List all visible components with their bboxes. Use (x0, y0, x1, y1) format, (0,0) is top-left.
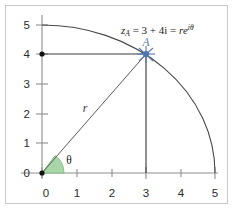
y-axis-tick-labels: 5 4 3 2 1 0 (24, 19, 31, 179)
figure-frame: 5 4 3 2 1 0 0 1 2 3 4 5 (5, 5, 228, 204)
y-tick-label-0: 0 (24, 167, 30, 179)
theta-angle-sector (42, 155, 64, 173)
radius-segment-line (42, 54, 146, 173)
quarter-circle-arc (42, 25, 215, 173)
y-tick-label-4: 4 (24, 48, 31, 60)
angle-label: θ (66, 154, 72, 166)
x-tick-label-3: 3 (143, 187, 149, 199)
x-axis-tick-labels: 0 1 2 3 4 5 (43, 187, 218, 199)
y-tick-label-1: 1 (24, 137, 30, 149)
x-tick-label-0: 0 (43, 187, 49, 199)
complex-plane-plot: 5 4 3 2 1 0 0 1 2 3 4 5 (6, 6, 227, 203)
y-tick-label-3: 3 (24, 78, 30, 90)
origin-point-dot (39, 170, 44, 175)
x-tick-label-1: 1 (74, 187, 80, 199)
equation-middle-text: = 3 + 4i = (130, 24, 179, 36)
x-tick-label-2: 2 (109, 187, 115, 199)
y-tick-label-5: 5 (24, 19, 30, 31)
complex-number-equation: zA = 3 + 4i = reiθ (120, 23, 194, 38)
point-a-dot (143, 51, 149, 57)
x-tick-label-5: 5 (212, 187, 218, 199)
imaginary-projection-dot (39, 51, 44, 56)
point-a-label: A (141, 36, 150, 48)
radius-label: r (83, 101, 88, 115)
x-tick-label-4: 4 (178, 187, 185, 199)
axes-group (21, 15, 218, 178)
equation-exponent: iθ (188, 23, 194, 32)
y-tick-label-2: 2 (24, 108, 30, 120)
point-a-marker (137, 46, 155, 63)
